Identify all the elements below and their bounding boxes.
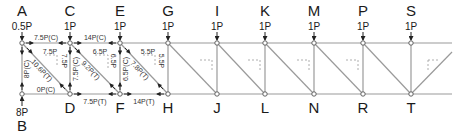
- force-EH-vertical: 5.5P: [158, 54, 165, 69]
- node-label-P: P: [358, 2, 368, 19]
- truss-diagram: A C E G I K M P S 0.5P 1P 1P 1P 1P 1P 1P…: [0, 0, 460, 137]
- node-label-K: K: [260, 2, 270, 19]
- node-label-G: G: [162, 2, 174, 19]
- force-FH: 14P(T): [133, 98, 154, 106]
- force-CF-vertical: 6.5P: [110, 54, 117, 69]
- force-CE: 14P(C): [84, 34, 106, 42]
- force-EF: 6.5P(C): [122, 57, 130, 81]
- node-label-F: F: [115, 99, 124, 116]
- force-AB: 8P(C): [23, 60, 31, 78]
- node-label-M: M: [308, 2, 321, 19]
- force-DF: 7.5P(T): [83, 98, 106, 106]
- node-label-B: B: [17, 117, 27, 134]
- node-label-A: A: [17, 2, 27, 19]
- node-label-D: D: [65, 99, 76, 116]
- node-label-L: L: [261, 99, 269, 116]
- node-label-R: R: [358, 99, 369, 116]
- load-label-P: 1P: [357, 21, 370, 32]
- node-label-T: T: [406, 99, 415, 116]
- bottom-node-labels: B D F H J L N R T: [17, 99, 416, 134]
- force-CF-horizontal: 6.5P: [93, 48, 108, 55]
- node-label-J: J: [213, 99, 221, 116]
- force-CF: 9.2P(T): [80, 59, 102, 82]
- force-AD-vertical: 7.5P: [61, 54, 68, 69]
- node-label-S: S: [406, 2, 416, 19]
- top-node-labels: A C E G I K M P S: [17, 2, 416, 19]
- force-EH-horizontal: 5.5P: [141, 48, 156, 55]
- node-label-C: C: [65, 2, 76, 19]
- force-AD-horizontal: 7.5P: [43, 48, 58, 55]
- force-AD: 10.6P(T): [29, 58, 53, 83]
- load-label-M: 1P: [308, 21, 321, 32]
- node-label-H: H: [163, 99, 174, 116]
- force-CD: 7.5P(C): [72, 57, 80, 81]
- node-label-E: E: [115, 2, 125, 19]
- vertical-members: [22, 43, 411, 94]
- force-BD: 0P(C): [37, 86, 55, 94]
- force-AC: 7.5P(C): [34, 34, 58, 42]
- load-label-K: 1P: [259, 21, 272, 32]
- load-label-I: 1P: [211, 21, 224, 32]
- load-label-S: 1P: [405, 21, 418, 32]
- load-label-A: 0.5P: [12, 21, 33, 32]
- node-label-I: I: [215, 2, 219, 19]
- load-label-C: 1P: [64, 21, 77, 32]
- load-label-G: 1P: [162, 21, 175, 32]
- load-label-E: 1P: [114, 21, 127, 32]
- member-force-labels: 7.5P(C) 14P(C) 0P(C) 7.5P(T) 14P(T) 7.5P…: [23, 34, 165, 106]
- force-EH: 7.8P(T): [129, 59, 151, 82]
- node-label-N: N: [309, 99, 320, 116]
